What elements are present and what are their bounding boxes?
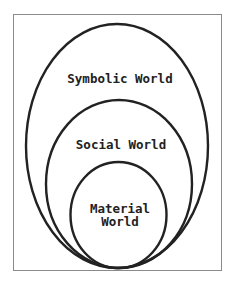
material-world-label-line2: World bbox=[101, 214, 139, 229]
nested-worlds-diagram: Symbolic World Social World Material Wor… bbox=[0, 0, 234, 283]
symbolic-world-label: Symbolic World bbox=[67, 71, 172, 86]
social-world-label: Social World bbox=[76, 137, 166, 152]
